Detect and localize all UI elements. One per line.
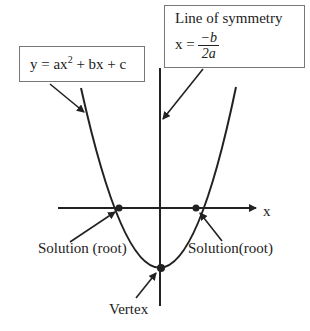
root-right-arrow [200,213,222,241]
root-left-label: Solution (root) [38,240,127,257]
equation-box: y = ax2 + bx + c [19,46,145,82]
root-left-point [116,205,123,212]
symmetry-title: Line of symmetry [175,10,282,27]
x-axis-label: x [263,203,271,220]
symmetry-box: Line of symmetry x = −b2a [164,5,305,68]
parabola-diagram: y = ax2 + bx + c Line of symmetry x = −b… [0,0,310,331]
root-right-point [193,205,200,212]
equation-text: y = ax2 + bx + c [30,54,126,73]
symmetry-arrow [163,69,203,119]
vertex-label: Vertex [109,301,148,318]
vertex-point [157,264,165,272]
symmetry-formula: x = −b2a [175,30,219,61]
root-left-arrow [70,212,115,242]
root-right-label: Solution(root) [188,240,273,257]
vertex-arrow [136,273,156,298]
equation-arrow [50,84,84,112]
